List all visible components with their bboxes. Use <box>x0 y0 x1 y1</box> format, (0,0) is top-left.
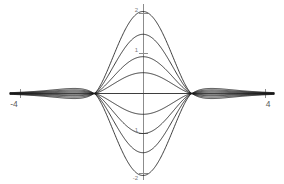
x-tick-label-neg4: -4 <box>10 99 18 109</box>
plot-canvas: -4 4 2 1 -1 -2 <box>0 0 284 184</box>
curve-amp-neg148 <box>10 90 274 153</box>
y-tick-label-pos1: 1 <box>135 47 139 53</box>
curve-amp-neg2 <box>10 88 274 175</box>
y-tick-label-neg2: -2 <box>133 175 139 181</box>
curve-amp-pos2 <box>10 12 274 99</box>
curves-group <box>10 12 274 176</box>
curve-amp-pos148 <box>10 34 274 97</box>
y-tick-label-pos2: 2 <box>135 7 139 13</box>
plot-figure: -4 4 2 1 -1 -2 <box>0 0 284 184</box>
curve-amp-neg100 <box>10 91 274 133</box>
x-tick-label-pos4: 4 <box>266 99 271 109</box>
y-tick-label-neg1: -1 <box>133 127 139 133</box>
